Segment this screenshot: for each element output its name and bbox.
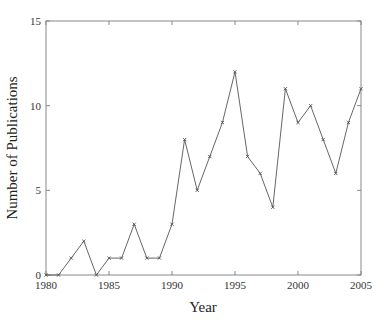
publications-line-chart: 198019851990199520002005 051015 Year Num… — [0, 0, 383, 324]
x-tick-label: 2000 — [287, 279, 310, 291]
x-tick-label: 1990 — [161, 279, 184, 291]
x-tick-label: 1995 — [224, 279, 247, 291]
y-tick-label: 5 — [36, 184, 42, 196]
x-tick-label: 1985 — [98, 279, 121, 291]
x-tick-label: 2005 — [350, 279, 373, 291]
x-axis-title: Year — [189, 299, 217, 315]
y-tick-label: 0 — [36, 269, 42, 281]
y-tick-label: 10 — [30, 100, 42, 112]
y-axis-ticks: 051015 — [30, 15, 361, 281]
x-axis-ticks: 198019851990199520002005 — [35, 21, 373, 291]
y-axis-title: Number of Publications — [4, 76, 20, 219]
x-marker-icon — [70, 256, 73, 259]
y-tick-label: 15 — [30, 15, 42, 27]
plot-frame — [46, 21, 361, 275]
publications-series-line — [46, 72, 361, 275]
